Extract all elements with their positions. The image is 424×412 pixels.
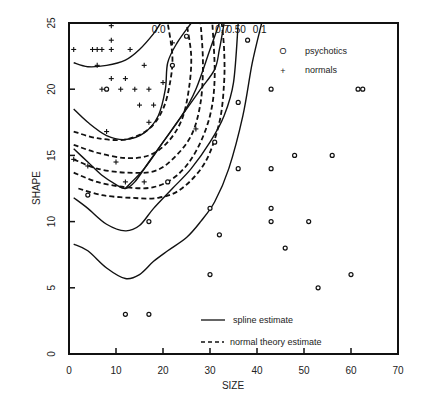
normal-point — [142, 179, 147, 184]
contour-level-label: 0.1 — [253, 24, 267, 35]
x-tick-label: 50 — [298, 365, 310, 376]
normal-point — [104, 129, 109, 134]
y-tick-label: 0 — [46, 351, 57, 357]
psychotic-point — [293, 153, 297, 157]
psychotic-point — [217, 233, 221, 237]
x-tick-label: 70 — [392, 365, 404, 376]
normal-point — [71, 47, 76, 52]
normal-point — [71, 157, 76, 162]
psychotic-point — [105, 87, 109, 91]
legend-normals-label: normals — [305, 65, 338, 75]
x-tick-label: 40 — [251, 365, 263, 376]
psychotic-point — [208, 273, 212, 277]
normal-point — [123, 179, 128, 184]
legend-spline-label: spline estimate — [233, 315, 293, 325]
psychotic-point — [147, 220, 151, 224]
normal-point — [114, 160, 119, 165]
normal-point — [90, 47, 95, 52]
psychotic-point — [208, 206, 212, 210]
legend-psychotics-label: psychotics — [305, 46, 348, 56]
normal-point — [146, 120, 151, 125]
contours-layer — [74, 23, 262, 279]
x-axis-title: SIZE — [222, 380, 245, 391]
psychotic-point — [283, 246, 287, 250]
psychotic-point — [356, 87, 360, 91]
normal-point — [109, 47, 114, 52]
normal-point — [118, 87, 123, 92]
psychotic-point — [213, 140, 217, 144]
y-tick-label: 15 — [46, 149, 57, 161]
psychotic-point — [307, 220, 311, 224]
y-tick-label: 10 — [46, 216, 57, 228]
spline-contour — [74, 23, 161, 67]
contour-level-label: 0.0 — [152, 24, 166, 35]
normal-point — [142, 63, 147, 68]
psychotic-point — [147, 312, 151, 316]
legend-normal-theory-label: normal theory estimate — [230, 337, 322, 347]
contour-scatter-chart: 0102030405060700510152025 SIZE SHAPE O p… — [0, 0, 424, 412]
y-tick-label: 5 — [46, 285, 57, 291]
psychotic-point — [361, 87, 365, 91]
psychotic-point — [316, 286, 320, 290]
spline-contour — [74, 23, 192, 140]
plot-frame — [69, 23, 398, 354]
legend-psychotics-marker: O — [279, 46, 286, 56]
psychotic-point — [349, 273, 353, 277]
normal-theory-contour — [74, 23, 203, 173]
marker-legend: O psychotics + normals — [279, 46, 347, 76]
psychotic-point — [269, 220, 273, 224]
psychotic-point — [269, 167, 273, 171]
x-tick-label: 30 — [204, 365, 216, 376]
normal-point — [128, 47, 133, 52]
normal-theory-contour — [74, 23, 215, 188]
y-tick-label: 25 — [46, 17, 57, 29]
normal-point — [95, 47, 100, 52]
normal-point — [99, 47, 104, 52]
x-tick-label: 10 — [110, 365, 122, 376]
y-tick-label: 20 — [46, 83, 57, 95]
x-tick-label: 20 — [157, 365, 169, 376]
psychotic-point — [330, 153, 334, 157]
psychotic-point — [236, 167, 240, 171]
psychotic-point — [236, 100, 240, 104]
psychotic-point — [269, 206, 273, 210]
normal-point — [99, 87, 104, 92]
legend-normals-marker: + — [280, 66, 285, 76]
psychotic-point — [123, 312, 127, 316]
psychotic-point — [269, 87, 273, 91]
psychotic-point — [185, 34, 189, 38]
x-tick-label: 0 — [66, 365, 72, 376]
spline-contour — [74, 23, 239, 231]
normal-point — [109, 38, 114, 43]
line-legend: spline estimate normal theory estimate — [201, 315, 322, 347]
psychotic-point — [246, 38, 250, 42]
psychotic-point — [166, 180, 170, 184]
normal-point — [151, 103, 156, 108]
contour-level-label: 0.50 — [226, 24, 246, 35]
normal-point — [161, 80, 166, 85]
x-tick-label: 60 — [345, 365, 357, 376]
psychotic-point — [86, 193, 90, 197]
normal-point — [109, 76, 114, 81]
normal-point — [132, 87, 137, 92]
normal-point — [146, 87, 151, 92]
normal-point — [123, 76, 128, 81]
normal-point — [137, 103, 142, 108]
y-axis-title: SHAPE — [31, 171, 42, 205]
psychotic-point — [170, 63, 174, 67]
